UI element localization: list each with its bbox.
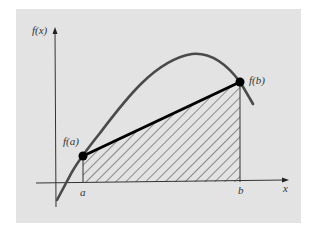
fa-label: f(a)	[63, 135, 79, 147]
point-fb	[236, 78, 245, 87]
y-axis	[55, 32, 56, 207]
b-tick-label: b	[238, 184, 244, 196]
fb-label: f(b)	[249, 74, 265, 86]
point-fa	[79, 152, 88, 161]
x-axis-label: x	[283, 182, 288, 194]
y-axis-arrow-icon	[53, 27, 58, 34]
y-axis-label: f(x)	[32, 24, 47, 36]
hatched-trapezoid-area	[83, 82, 240, 182]
a-tick-label: a	[80, 186, 86, 198]
trapezoid-diagram	[0, 0, 316, 236]
